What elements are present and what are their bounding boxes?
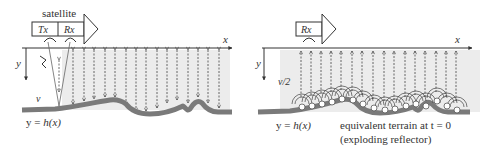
tx-antenna-icon [44,38,56,42]
terrain-label-prefix: y = [276,119,293,131]
terrain-label: y = h(x) [276,119,311,132]
x-axis-label: x [454,33,460,45]
rx-label: Rx [63,24,75,35]
y-axis-label: y [255,57,261,69]
tx-beam [48,42,59,106]
caption-line-2: (exploding reflector) [340,133,432,146]
rx-antenna-icon [303,38,315,42]
diagram-canvas: satellite Tx Rx x y [0,0,485,153]
caption-line-1: equivalent terrain at t = 0 [340,119,451,131]
right-panel: Rx x y v/2 [255,14,480,146]
terrain-label-func: h(x) [293,119,311,132]
terrain-label-func: h(x) [43,116,61,129]
velocity-label: v [36,93,41,104]
y-axis-label: y [15,57,21,69]
velocity-label: v/2 [278,76,290,87]
medium-shade [280,50,480,112]
terrain-label-prefix: y = [26,116,43,128]
rx-antenna-icon [65,38,76,42]
satellite-label: satellite [42,7,76,19]
x-axis-label: x [222,33,228,45]
pulse-icon [40,56,46,68]
direction-arrow-icon [322,14,336,44]
rx-label: Rx [300,24,312,35]
direction-arrow-icon [84,14,98,44]
tx-label: Tx [38,24,49,35]
terrain-label: y = h(x) [26,116,61,129]
left-panel: satellite Tx Rx x y [15,7,232,129]
